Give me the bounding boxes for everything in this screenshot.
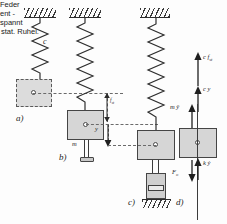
panel-label-c: c)	[128, 197, 135, 207]
force-label-inertia: m ÿ	[170, 104, 179, 111]
static-deflection-sub: st	[112, 100, 115, 105]
rod-b	[84, 140, 85, 157]
force-arrow-excitation	[186, 160, 198, 182]
mass-label-b: m	[72, 141, 77, 148]
damper-rod-right	[158, 160, 159, 173]
spring-c	[146, 17, 168, 130]
panel-label-b: b)	[59, 152, 67, 162]
force-label-spring-static: c fst	[203, 54, 212, 63]
rod-b-2	[88, 140, 89, 157]
spring-a	[30, 17, 52, 79]
panel-label-d: d)	[176, 197, 184, 207]
static-deflection-label: fst	[110, 98, 114, 105]
panel-label-a: a)	[16, 113, 24, 123]
force-label-spring-dynamic: c y	[203, 86, 210, 93]
force-spring-static-sub: st	[209, 57, 212, 62]
force-label-excitation: Fo	[172, 169, 178, 178]
displacement-label-y: y	[95, 126, 98, 133]
foot-b	[80, 157, 94, 162]
displacement-arrow-y	[102, 125, 116, 147]
damper-rod-left	[152, 160, 153, 173]
spring-b	[75, 17, 97, 110]
spring-constant-label-a: c	[43, 38, 47, 46]
figure-canvas: c Feder ent - spannt a) m b) fst stat. R…	[0, 0, 227, 224]
displaced-position-line	[108, 145, 156, 146]
force-excitation-sub: o	[176, 172, 178, 177]
force-label-damper: k ẏ	[203, 160, 210, 167]
ground-support-c	[142, 199, 171, 208]
damper-piston	[148, 185, 164, 191]
